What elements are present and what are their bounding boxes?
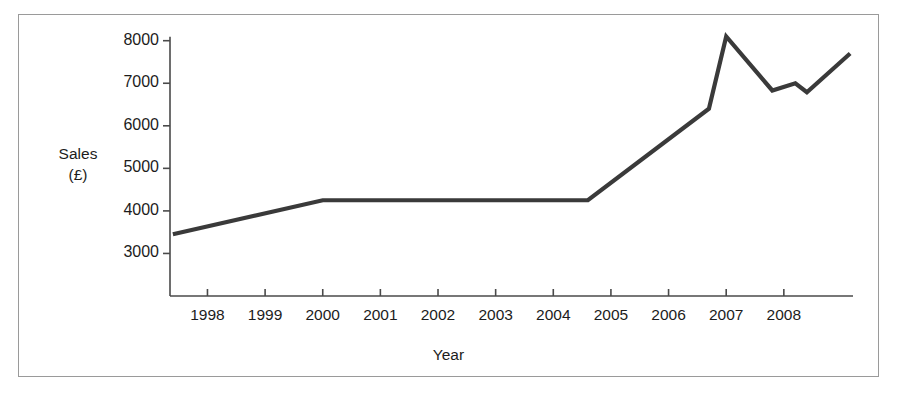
y-tick-label: 6000 [101, 116, 159, 134]
x-tick-label: 1999 [235, 306, 295, 324]
y-tick-label: 5000 [101, 158, 159, 176]
x-tick-label: 2008 [754, 306, 814, 324]
x-tick-label: 2007 [696, 306, 756, 324]
x-tick-label: 2004 [523, 306, 583, 324]
x-tick-label: 2000 [293, 306, 353, 324]
cropped-caption-text [28, 381, 358, 394]
y-tick-label: 4000 [101, 201, 159, 219]
chart-page: Sales (£) Year 800070006000500040003000 … [0, 0, 897, 395]
y-tick-label: 7000 [101, 73, 159, 91]
x-tick-label: 2002 [408, 306, 468, 324]
sales-data-line [173, 36, 850, 234]
x-axis-title: Year [0, 346, 897, 364]
x-tick-label: 2001 [350, 306, 410, 324]
x-tick-label: 2005 [581, 306, 641, 324]
y-axis-ticks [163, 41, 170, 254]
x-tick-label: 2006 [639, 306, 699, 324]
x-axis-ticks [207, 289, 783, 296]
y-tick-label: 8000 [101, 31, 159, 49]
x-tick-label: 2003 [466, 306, 526, 324]
x-tick-label: 1998 [177, 306, 237, 324]
line-chart-plot [0, 0, 897, 395]
y-tick-label: 3000 [101, 243, 159, 261]
